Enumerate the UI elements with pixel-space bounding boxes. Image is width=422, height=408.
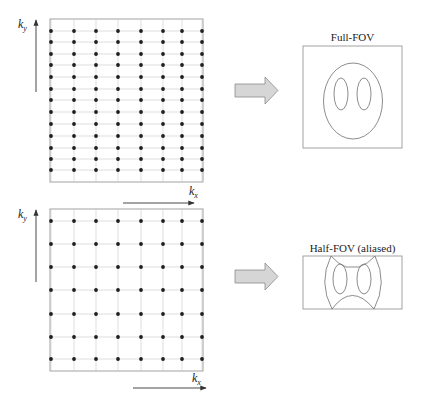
sample-dot [72,52,76,56]
sample-dot [72,63,76,67]
sample-dot [94,29,98,33]
sample-dot [180,98,184,102]
bottom-transform-arrow-icon [235,263,278,290]
sample-dot [180,134,184,138]
sample-dot [161,335,165,339]
sample-dot [94,110,98,114]
sample-dot [200,146,204,150]
sample-dot [72,98,76,102]
sample-dot [49,312,53,316]
sample-dot [94,75,98,79]
sample-dot [180,219,184,223]
sample-dot [116,75,120,79]
aliased-right-outer-arc [374,256,381,309]
sample-dot [116,52,120,56]
full-fov-frame [303,46,402,148]
sample-dot [94,265,98,269]
half-fov-title: Half-FOV (aliased) [310,242,396,255]
sample-dot [116,335,120,339]
sample-dot [161,75,165,79]
sample-dot [49,134,53,138]
sample-dot [200,219,204,223]
sample-dot [161,98,165,102]
sample-dot [94,242,98,246]
sample-dot [72,146,76,150]
sample-dot [94,335,98,339]
sample-dot [116,157,120,161]
sample-dot [180,40,184,44]
sample-dot [116,40,120,44]
sample-dot [49,146,53,150]
sample-dot [161,288,165,292]
sample-dot [180,242,184,246]
sample-dot [161,146,165,150]
sample-dot [116,146,120,150]
sample-dot [72,242,76,246]
sample-dot [200,157,204,161]
sample-dot [139,146,143,150]
sample-dot [180,87,184,91]
sample-dot [72,357,76,361]
sample-dot [139,63,143,67]
sample-dot [180,357,184,361]
sample-dot [72,134,76,138]
sample-dot [94,40,98,44]
sample-dot [49,288,53,292]
sample-dot [161,219,165,223]
sample-dot [72,87,76,91]
sample-dot [49,75,53,79]
sample-dot [72,265,76,269]
sample-dot [116,110,120,114]
aliased-left-inner-ellipse [333,264,347,294]
sample-dot [200,87,204,91]
sample-dot [200,242,204,246]
half-fov-frame [303,256,402,309]
aliased-right-inner-ellipse [357,264,371,294]
sample-dot [94,98,98,102]
sample-dot [139,40,143,44]
sample-dot [139,110,143,114]
sample-dot [72,219,76,223]
sample-dot [116,288,120,292]
sample-dot [161,312,165,316]
sample-dot [180,110,184,114]
sample-dot [139,75,143,79]
sample-dot [180,335,184,339]
top-sample-dots [49,29,204,172]
sample-dot [161,265,165,269]
sample-dot [72,335,76,339]
sample-dot [161,52,165,56]
bottom-ky-label: ky [18,207,27,223]
sample-dot [161,134,165,138]
sample-dot [139,335,143,339]
sample-dot [139,288,143,292]
top-kspace-grid [49,19,204,182]
sample-dot [180,146,184,150]
sample-dot [94,134,98,138]
sample-dot [139,87,143,91]
aliased-left-outer-arc [325,256,332,309]
phantom-outer-ellipse [324,63,383,139]
sample-dot [72,110,76,114]
sample-dot [116,265,120,269]
sample-dot [161,122,165,126]
sample-dot [200,98,204,102]
sample-dot [139,312,143,316]
sample-dot [116,63,120,67]
sample-dot [49,242,53,246]
sample-dot [200,63,204,67]
sample-dot [94,122,98,126]
sample-dot [116,98,120,102]
kspace-sampling-diagram: ky kx Full-FOV ky kx Half-FOV (aliased) [0,0,422,408]
sample-dot [116,219,120,223]
sample-dot [200,134,204,138]
sample-dot [200,110,204,114]
sample-dot [161,87,165,91]
top-kx-label: kx [189,184,198,200]
sample-dot [180,52,184,56]
sample-dot [139,29,143,33]
sample-dot [200,288,204,292]
sample-dot [139,122,143,126]
sample-dot [94,168,98,172]
sample-dot [139,219,143,223]
